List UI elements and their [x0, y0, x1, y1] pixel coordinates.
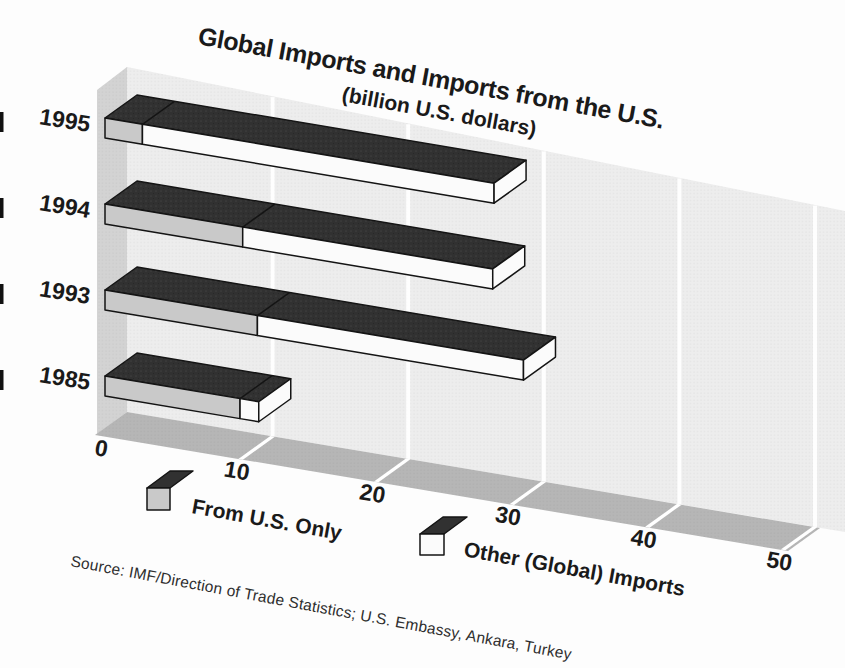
page-edge-mark [0, 198, 4, 218]
chart-canvas: 1995199419931985 01020304050 Global Impo… [0, 0, 845, 668]
x-tick-label-0: 0 [93, 434, 110, 462]
scanned-chart-page: 1995199419931985 01020304050 Global Impo… [0, 0, 845, 668]
wall-gridline [813, 206, 817, 527]
page-edge-mark [0, 284, 4, 304]
page-edge-tick-marks [0, 112, 4, 390]
x-tick-label-10: 10 [222, 456, 252, 486]
page-edge-mark [0, 112, 4, 132]
y-axis-label-1994: 1994 [38, 189, 93, 223]
x-tick-label-20: 20 [358, 478, 388, 508]
y-axis-labels: 1995199419931985 [38, 103, 93, 395]
legend-swatch-other-global-icon [420, 517, 467, 555]
source-note: Source: IMF/Direction of Trade Statistic… [69, 552, 573, 662]
wall-gridline [677, 178, 681, 504]
x-tick-label-30: 30 [493, 501, 523, 531]
x-tick-label-50: 50 [765, 546, 795, 576]
y-axis-label-1985: 1985 [38, 361, 93, 395]
y-axis-label-1995: 1995 [38, 103, 93, 137]
y-axis-label-1993: 1993 [38, 275, 93, 309]
legend-swatch-from-us-icon [147, 471, 193, 510]
wall-gridline [542, 151, 546, 481]
x-tick-label-40: 40 [629, 523, 659, 553]
legend-label-from-us: From U.S. Only [190, 494, 344, 544]
bar-front-other-segment [240, 399, 259, 422]
page-edge-mark [0, 370, 4, 390]
